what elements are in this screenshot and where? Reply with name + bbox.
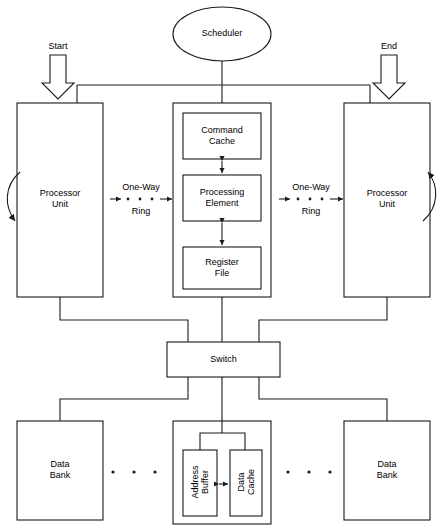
conn-left-to-switch: [60, 297, 188, 342]
bank-right-dot: [286, 470, 289, 473]
ring-right-label-top: One-Way: [281, 182, 341, 193]
ring-right-label-bottom: Ring: [281, 206, 341, 217]
ring-right-dot: [297, 198, 300, 201]
data-bank-left-label: Data Bank: [17, 459, 103, 481]
data-bank-right-label: Data Bank: [344, 459, 430, 481]
conn-switch-to-right-bank: [259, 377, 387, 421]
ring-left-dot: [139, 198, 142, 201]
start-arrow: [42, 55, 74, 99]
data-cache-label: Data Cache: [236, 449, 256, 515]
end-label: End: [364, 41, 414, 52]
end-arrow: [373, 55, 405, 99]
bank-right-dot: [328, 470, 331, 473]
start-label: Start: [33, 41, 83, 52]
ring-right-dot: [321, 198, 324, 201]
processor-unit-left-label: Processor Unit: [17, 188, 103, 210]
register-file-label: Register File: [183, 257, 261, 279]
bank-left-dot: [111, 470, 114, 473]
bank-left-dot: [153, 470, 156, 473]
conn-right-to-switch: [259, 297, 387, 342]
ring-left-dot: [151, 198, 154, 201]
diagram-canvas: Scheduler Start End Processor Unit Proce…: [0, 0, 443, 532]
ring-left-label-top: One-Way: [111, 182, 171, 193]
ring-left-dot: [127, 198, 130, 201]
bank-left-dot: [132, 470, 135, 473]
switch-label: Switch: [167, 354, 280, 365]
processor-unit-right-label: Processor Unit: [344, 188, 430, 210]
address-buffer-label: Address Buffer: [190, 449, 210, 515]
bank-right-dot: [307, 470, 310, 473]
ring-right-dot: [309, 198, 312, 201]
scheduler-label: Scheduler: [172, 28, 272, 39]
ring-left-label-bottom: Ring: [111, 206, 171, 217]
processing-element-label: Processing Element: [183, 187, 261, 209]
command-cache-label: Command Cache: [183, 125, 261, 147]
conn-switch-to-left-bank: [60, 377, 188, 421]
